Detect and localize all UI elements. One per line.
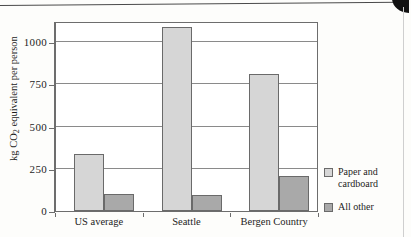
bar-bergen-country-all-other <box>279 176 309 211</box>
y-tick-label-500: 500 <box>30 121 47 133</box>
bar-seattle-all-other <box>192 195 222 211</box>
legend-item-all-other: All other <box>324 201 408 213</box>
bar-bergen-country-paper-and-cardboard <box>249 74 279 211</box>
legend-label-all-other: All other <box>338 201 374 213</box>
chart-legend: Paper andcardboardAll other <box>324 166 408 224</box>
x-label-bergen-country: Bergen Country <box>230 216 318 227</box>
y-axis-title-prefix: kg CO <box>8 133 19 161</box>
legend-swatch-all-other <box>324 203 333 212</box>
cut-off-heading <box>95 0 325 2</box>
x-tick-3 <box>318 213 319 217</box>
page-corner-artifact-icon <box>392 0 409 13</box>
y-axis-title-subscript: 2 <box>12 129 21 133</box>
bar-us-average-paper-and-cardboard <box>74 154 104 211</box>
legend-swatch-paper-and-cardboard <box>324 168 333 177</box>
y-tick-label-250: 250 <box>30 163 47 175</box>
y-tick-label-750: 750 <box>30 78 47 90</box>
chart-page: kg CO2 equivalent per person 02505007501… <box>0 0 411 237</box>
legend-label-paper-and-cardboard: Paper andcardboard <box>338 166 378 190</box>
page-rule-line <box>0 2 400 6</box>
y-tick-label-1000: 1000 <box>24 36 47 48</box>
y-axis-title: kg CO2 equivalent per person <box>8 11 21 187</box>
plot-area <box>55 22 318 212</box>
bar-seattle-paper-and-cardboard <box>162 27 192 211</box>
x-label-seattle: Seattle <box>143 216 231 227</box>
x-label-us-average: US average <box>55 216 143 227</box>
bar-us-average-all-other <box>104 194 134 211</box>
legend-item-paper-and: Paper andcardboard <box>324 166 408 190</box>
y-tick-label-0: 0 <box>41 205 47 217</box>
y-axis-title-suffix: equivalent per person <box>8 36 19 129</box>
